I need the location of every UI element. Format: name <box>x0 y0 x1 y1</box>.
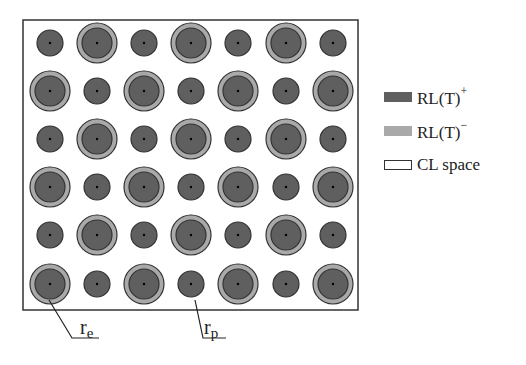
legend-label: RL(T)− <box>417 120 467 143</box>
center-dot <box>143 234 145 236</box>
center-dot <box>237 42 239 44</box>
center-dot <box>237 138 239 140</box>
center-dot <box>332 42 334 44</box>
center-dot <box>237 234 239 236</box>
center-dot <box>96 234 98 236</box>
center-dot <box>332 283 334 285</box>
legend-item-cl-space: CL space <box>384 148 480 182</box>
center-dot <box>96 90 98 92</box>
center-dot <box>96 186 98 188</box>
center-dot <box>285 283 287 285</box>
center-dot <box>285 186 287 188</box>
lattice-diagram: rerp <box>0 0 526 365</box>
center-dot <box>143 186 145 188</box>
center-dot <box>237 90 239 92</box>
center-dot <box>49 283 51 285</box>
center-dot <box>143 283 145 285</box>
center-dot <box>190 283 192 285</box>
center-dot <box>190 90 192 92</box>
rl-plus-swatch <box>384 92 412 102</box>
center-dot <box>190 42 192 44</box>
center-dot <box>96 138 98 140</box>
center-dot <box>143 42 145 44</box>
center-dot <box>285 234 287 236</box>
legend-label: CL space <box>417 155 480 175</box>
center-dot <box>143 138 145 140</box>
center-dot <box>49 186 51 188</box>
center-dot <box>285 90 287 92</box>
center-dot <box>96 42 98 44</box>
legend-item-rl-minus: RL(T)− <box>384 114 480 148</box>
center-dot <box>332 90 334 92</box>
center-dot <box>49 234 51 236</box>
center-dot <box>190 234 192 236</box>
center-dot <box>96 283 98 285</box>
center-dot <box>190 138 192 140</box>
center-dot <box>285 138 287 140</box>
center-dot <box>237 186 239 188</box>
legend: RL(T)+ RL(T)− CL space <box>384 80 480 182</box>
center-dot <box>49 138 51 140</box>
center-dot <box>332 186 334 188</box>
cl-space-swatch <box>384 160 412 170</box>
radius-label: rp <box>204 316 218 341</box>
center-dot <box>332 234 334 236</box>
legend-label: RL(T)+ <box>417 86 467 109</box>
center-dot <box>332 138 334 140</box>
rl-minus-swatch <box>384 126 412 136</box>
center-dot <box>285 42 287 44</box>
center-dot <box>143 90 145 92</box>
legend-item-rl-plus: RL(T)+ <box>384 80 480 114</box>
center-dot <box>237 283 239 285</box>
center-dot <box>49 90 51 92</box>
center-dot <box>190 186 192 188</box>
radius-label: re <box>80 316 94 341</box>
center-dot <box>49 42 51 44</box>
